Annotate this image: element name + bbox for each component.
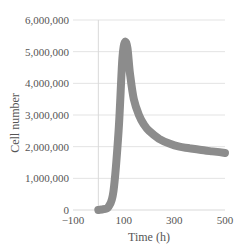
y-axis-tick-labels: 01,000,0002,000,0003,000,0004,000,0005,0… — [25, 14, 70, 216]
gridlines — [73, 20, 225, 178]
x-axis-tick-labels: −100100300500 — [62, 214, 234, 226]
y-tick-label: 4,000,000 — [25, 77, 70, 89]
y-tick-label: 5,000,000 — [25, 46, 70, 58]
cell-growth-chart: 01,000,0002,000,0003,000,0004,000,0005,0… — [0, 0, 243, 252]
cell-number-line — [98, 42, 225, 210]
x-tick-label: 500 — [217, 214, 234, 226]
x-tick-label: 300 — [166, 214, 183, 226]
x-tick-label: 100 — [115, 214, 132, 226]
y-tick-label: 3,000,000 — [25, 109, 70, 121]
y-axis-title: Cell number — [8, 93, 22, 153]
y-tick-label: 6,000,000 — [25, 14, 70, 26]
y-tick-label: 1,000,000 — [25, 172, 70, 184]
x-tick-label: −100 — [62, 214, 85, 226]
y-tick-label: 2,000,000 — [25, 141, 70, 153]
x-axis-title: Time (h) — [128, 230, 170, 244]
